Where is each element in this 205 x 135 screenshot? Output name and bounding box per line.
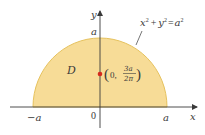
neg-a-label: −a xyxy=(27,112,41,123)
centroid-denominator: 2π xyxy=(123,75,133,83)
leader-line xyxy=(136,31,142,45)
region-label: D xyxy=(66,64,76,77)
x-axis-label: x xyxy=(190,111,196,122)
top-a-label: a xyxy=(91,26,97,37)
curve-equation: x2+y2=a2 xyxy=(140,17,184,28)
origin-label: 0 xyxy=(91,110,96,121)
centroid-x-value: 0, xyxy=(110,70,117,80)
y-axis-label: y xyxy=(90,9,97,20)
centroid-dot xyxy=(98,72,103,77)
centroid-open-paren: ( xyxy=(104,66,109,83)
semicircle-diagram: y a x −a 0 a D x2+y2=a2 ( 0, 3a 2π ) xyxy=(0,0,205,135)
centroid-numerator: 3a xyxy=(124,65,133,73)
centroid-close-paren: ) xyxy=(136,66,141,83)
pos-a-label: a xyxy=(163,112,169,123)
